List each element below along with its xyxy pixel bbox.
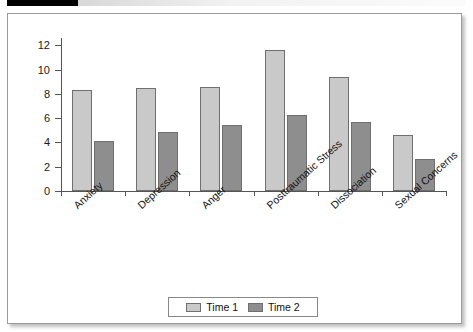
y-tick-label: 4	[22, 137, 50, 147]
legend-item-time-1: Time 1	[186, 302, 238, 312]
legend-label-time-2: Time 2	[268, 302, 300, 312]
legend-item-time-2: Time 2	[248, 302, 300, 312]
screenshot-root: 024681012 AnxietyDepressionAngerPosttrau…	[0, 0, 473, 332]
bar-posttraumatic-stress-time-1	[265, 50, 285, 191]
bar-dissociation-time-1	[329, 77, 349, 191]
legend-swatch-time-1	[186, 303, 201, 312]
bars-layer	[61, 38, 446, 191]
legend-label-time-1: Time 1	[206, 302, 238, 312]
bar-sexual-concerns-time-1	[393, 135, 413, 191]
chart-figure-panel: 024681012 AnxietyDepressionAngerPosttrau…	[7, 13, 462, 324]
y-tick-label: 8	[22, 89, 50, 99]
y-tick-label: 0	[22, 186, 50, 196]
y-tick-label: 2	[22, 162, 50, 172]
plot-area: 024681012 AnxietyDepressionAngerPosttrau…	[8, 14, 461, 323]
black-tab-marker	[7, 0, 78, 6]
bar-anger-time-2	[222, 125, 242, 191]
y-tick-label: 6	[22, 113, 50, 123]
y-tick-label: 10	[22, 65, 50, 75]
legend-swatch-time-2	[248, 303, 263, 312]
bar-depression-time-1	[136, 88, 156, 191]
x-axis-category-labels: AnxietyDepressionAngerPosttraumatic Stre…	[61, 196, 461, 296]
y-tick-label: 12	[22, 40, 50, 50]
page-edge-gradient	[78, 0, 466, 6]
chart-legend: Time 1 Time 2	[168, 297, 318, 317]
bar-anxiety-time-1	[72, 90, 92, 191]
bar-anger-time-1	[200, 87, 220, 191]
